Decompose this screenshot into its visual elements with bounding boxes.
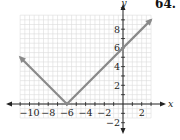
y-tick-label: −2	[106, 117, 120, 128]
x-axis-label: x	[168, 98, 174, 109]
y-tick-label: 4	[114, 61, 120, 72]
x-tick-label: 2	[139, 107, 145, 118]
y-tick-label: 8	[114, 24, 120, 35]
x-tick-label: −8	[41, 107, 55, 118]
x-axis-right-arrow-icon	[160, 102, 166, 107]
graph-plot: −10−8−6−4−22−22468xy	[0, 0, 180, 140]
x-tick-label: −6	[60, 107, 74, 118]
y-axis-label: y	[120, 0, 127, 8]
x-tick-label: −10	[19, 107, 39, 118]
y-tick-label: 2	[114, 80, 120, 91]
y-axis-down-arrow-icon	[121, 128, 126, 134]
x-tick-label: −4	[79, 107, 93, 118]
x-axis-left-arrow-icon	[6, 102, 12, 107]
